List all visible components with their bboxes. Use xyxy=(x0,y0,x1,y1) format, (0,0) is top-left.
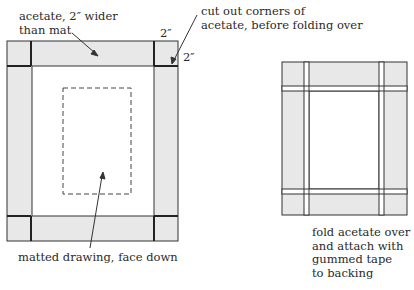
acetate-folded-right xyxy=(282,62,407,215)
label-acetate-wider: acetate, 2″ wider than mat xyxy=(19,9,118,37)
label-line: gummed tape xyxy=(312,253,410,267)
label-line: fold acetate over xyxy=(312,226,410,240)
label-line: acetate, 2″ wider xyxy=(19,9,118,23)
dimension-top: 2″ xyxy=(160,26,172,40)
label-line: cut out corners of xyxy=(201,4,363,18)
acetate-sheet-left xyxy=(7,41,178,241)
label-line: to backing xyxy=(312,267,410,281)
label-line: acetate, before folding over xyxy=(201,18,363,32)
label-cut-corners: cut out corners of acetate, before foldi… xyxy=(201,4,363,32)
dimension-side: 2″ xyxy=(183,50,195,64)
label-line: than mat xyxy=(19,23,118,37)
label-fold-over: fold acetate over and attach with gummed… xyxy=(312,226,410,280)
label-matted-drawing: matted drawing, face down xyxy=(18,250,178,264)
label-line: and attach with xyxy=(312,240,410,254)
